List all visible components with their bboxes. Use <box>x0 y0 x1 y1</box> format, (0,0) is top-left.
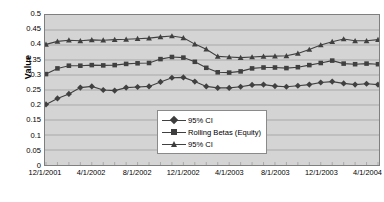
data-point-square <box>181 55 186 60</box>
legend-item: 95% CI <box>162 138 261 150</box>
data-point-diamond <box>329 79 335 85</box>
series-upper-confidence-bound <box>45 33 379 60</box>
data-point-diamond <box>54 95 60 101</box>
data-point-diamond <box>135 84 141 90</box>
chart-legend: 95% CIRolling Betas (Equity)95% CI <box>157 110 267 154</box>
data-point-diamond <box>45 101 49 107</box>
series-line <box>46 77 378 104</box>
data-point-square <box>376 62 379 67</box>
data-point-diamond <box>89 83 95 89</box>
data-point-triangle <box>203 46 209 51</box>
data-point-diamond <box>375 82 379 88</box>
data-point-diamond <box>100 87 106 93</box>
legend-marker-glyph <box>171 141 177 147</box>
legend-item-label: 95% CI <box>186 140 213 149</box>
data-point-diamond <box>112 88 118 94</box>
y-tick-label: 0.25 <box>1 86 41 94</box>
legend-item-label: Rolling Betas (Equity) <box>186 128 261 137</box>
data-point-diamond <box>77 85 83 91</box>
y-tick-label: 0.4 <box>1 40 41 48</box>
data-point-square <box>90 63 95 68</box>
data-point-square <box>353 62 358 67</box>
data-point-square <box>170 55 175 60</box>
legend-item-label: 95% CI <box>186 116 213 125</box>
data-point-square <box>364 61 369 66</box>
data-point-square <box>45 72 48 77</box>
y-tick-label: 0.35 <box>1 56 41 64</box>
x-tick-label: 8/1/2003 <box>261 168 290 177</box>
legend-marker-triangle-icon <box>162 139 186 149</box>
y-tick-label: 0.15 <box>1 116 41 124</box>
data-point-diamond <box>180 74 186 80</box>
data-point-diamond <box>295 83 301 89</box>
series-lower-confidence-bound <box>45 74 379 107</box>
x-tick-label: 4/1/2003 <box>215 168 244 177</box>
data-point-square <box>238 69 243 74</box>
y-tick-label: 0.45 <box>1 25 41 33</box>
y-tick-label: 0.1 <box>1 132 41 140</box>
series-line <box>46 57 378 74</box>
legend-marker-square-icon <box>162 127 186 137</box>
y-tick-label: 0.2 <box>1 101 41 109</box>
rolling-betas-chart: Value 0.50.450.40.350.30.250.20.150.10.0… <box>0 0 384 202</box>
data-point-square <box>215 70 220 75</box>
data-point-square <box>78 63 83 68</box>
data-point-diamond <box>192 79 198 85</box>
data-point-diamond <box>238 84 244 90</box>
data-point-diamond <box>226 85 232 91</box>
data-point-diamond <box>272 83 278 89</box>
x-tick-label: 8/1/2002 <box>123 168 152 177</box>
x-tick-label: 4/1/2004 <box>353 168 382 177</box>
data-point-diamond <box>306 82 312 88</box>
x-axis-tick-labels: 12/1/20014/1/20028/1/200212/1/20024/1/20… <box>0 168 384 184</box>
y-tick-label: 0.5 <box>1 10 41 18</box>
data-point-square <box>135 61 140 66</box>
data-point-square <box>250 66 255 71</box>
x-tick-label: 12/1/2002 <box>167 168 200 177</box>
data-point-diamond <box>123 85 129 91</box>
y-tick-label: 0.3 <box>1 71 41 79</box>
data-point-square <box>330 58 335 63</box>
legend-marker-diamond-icon <box>162 115 186 125</box>
data-point-diamond <box>260 82 266 88</box>
data-point-square <box>227 70 232 75</box>
series-point-estimate <box>45 55 379 77</box>
data-point-square <box>204 66 209 71</box>
data-point-diamond <box>66 91 72 97</box>
data-point-square <box>261 65 266 70</box>
data-point-square <box>341 61 346 66</box>
data-point-square <box>112 63 117 68</box>
data-point-diamond <box>283 84 289 90</box>
data-point-diamond <box>341 80 347 86</box>
data-point-square <box>147 61 152 66</box>
data-point-diamond <box>215 85 221 91</box>
legend-item: 95% CI <box>162 114 261 126</box>
data-point-diamond <box>352 82 358 88</box>
data-point-square <box>55 66 60 71</box>
data-point-square <box>284 66 289 71</box>
x-tick-label: 4/1/2002 <box>77 168 106 177</box>
data-point-square <box>101 63 106 68</box>
data-point-diamond <box>169 75 175 81</box>
data-point-triangle <box>192 41 198 46</box>
data-point-diamond <box>146 83 152 89</box>
legend-item: Rolling Betas (Equity) <box>162 126 261 138</box>
legend-marker-glyph <box>170 116 178 124</box>
data-point-diamond <box>203 83 209 89</box>
legend-marker-glyph <box>171 129 177 135</box>
x-tick-label: 12/1/2003 <box>305 168 338 177</box>
series-line <box>46 36 378 58</box>
data-point-diamond <box>249 82 255 88</box>
data-point-square <box>296 65 301 70</box>
y-tick-label: 0.05 <box>1 147 41 155</box>
x-tick-label: 12/1/2001 <box>29 168 62 177</box>
data-point-square <box>158 57 163 62</box>
data-point-triangle <box>341 36 347 41</box>
data-point-square <box>318 61 323 66</box>
data-point-square <box>193 60 198 65</box>
data-point-diamond <box>318 79 324 85</box>
data-point-square <box>273 65 278 70</box>
data-point-square <box>307 63 312 68</box>
data-point-square <box>124 62 129 67</box>
data-point-diamond <box>363 81 369 87</box>
